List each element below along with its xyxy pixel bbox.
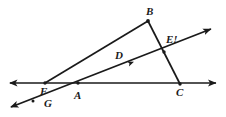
point-label-G: G	[44, 98, 52, 109]
point-label-D: D	[115, 50, 123, 61]
point-dot-A	[76, 81, 79, 84]
point-dot-B	[146, 19, 150, 23]
point-label-C: C	[176, 87, 183, 98]
figure-canvas	[0, 0, 226, 117]
point-label-A: A	[74, 90, 81, 101]
point-label-F: F	[40, 86, 47, 97]
point-dot-G	[32, 100, 35, 103]
geometry-figure: B E! D F A C G	[0, 0, 226, 117]
point-label-E: E!	[166, 34, 178, 45]
point-label-B: B	[146, 6, 153, 17]
point-dot-E	[162, 50, 165, 53]
